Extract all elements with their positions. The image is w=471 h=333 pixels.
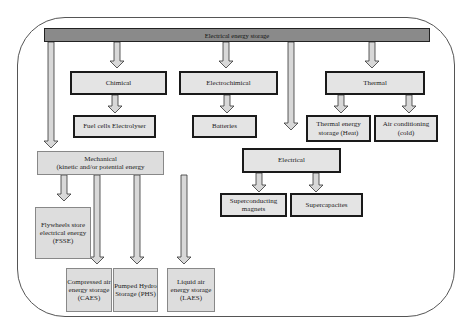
node-supercapacites: Supercapacites xyxy=(290,193,363,217)
root-node-electrical-energy-storage: Electrical energy storage xyxy=(44,28,430,42)
node-mechanical: Mechanical (kinetic and/or potential ene… xyxy=(37,151,164,175)
node-electrochemical: Electrochimical xyxy=(179,71,278,95)
node-fuel-cells-electrolyser: Fuel cells Electrolyser xyxy=(73,115,156,138)
node-superconducting-magnets: Superconducting magnets xyxy=(220,193,287,217)
node-thermal-energy-storage: Thermal energy storage (Heat) xyxy=(306,115,371,142)
node-caes: Compressed air energy storage (CAES) xyxy=(66,268,112,312)
node-chemical: Chimical xyxy=(70,71,167,95)
node-laes: Liquid air energy storage (LAES) xyxy=(167,268,215,312)
node-batteries: Batteries xyxy=(192,115,257,138)
node-air-conditioning: Air conditioning (cold) xyxy=(374,115,438,142)
mechanical-sublabel: (kinetic and/or potential energy xyxy=(57,163,145,171)
mechanical-label: Mechanical xyxy=(84,155,117,163)
node-phs: Pumped Hydro Storage (PHS) xyxy=(113,268,158,312)
node-flywheels: Flywheels store electrical energy (FSSE) xyxy=(35,207,91,259)
node-thermal: Thermal xyxy=(325,71,425,95)
node-electrical: Electrical xyxy=(242,148,341,173)
